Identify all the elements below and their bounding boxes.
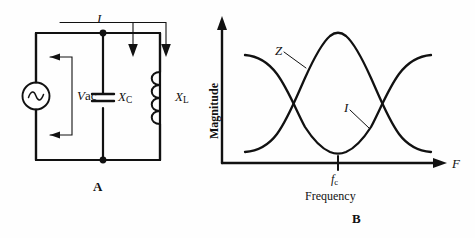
capacitor-label: XC <box>118 90 132 106</box>
inductor-label-sub: L <box>183 95 189 105</box>
x-axis-symbol: F <box>452 157 460 170</box>
voltage-arrowhead-lower <box>50 131 60 138</box>
current-label-I: I <box>97 12 101 25</box>
curve-z-label: Z <box>275 44 282 57</box>
inductor-label: XL <box>175 90 189 106</box>
inductor-coil-icon <box>152 72 160 124</box>
capacitor-label-sub: C <box>126 95 132 105</box>
node-dot-bottom <box>100 157 107 164</box>
curve-i-label: I <box>344 101 348 114</box>
x-axis-label: Frequency <box>305 190 356 202</box>
source-voltage-label-v: V <box>77 88 85 103</box>
capacitor-label-x: X <box>118 89 126 104</box>
voltage-bracket <box>50 57 72 135</box>
leader-line-i <box>350 110 369 128</box>
resonance-frequency-tick-label: fc <box>331 173 338 187</box>
source-voltage-label: Vac <box>77 89 97 102</box>
panel-b-letter: B <box>352 212 361 225</box>
figure-canvas <box>0 0 475 238</box>
node-dot-top <box>100 30 107 37</box>
curve-z <box>245 33 431 152</box>
y-axis-label: Magnitude <box>208 83 220 139</box>
current-arrowhead-inductor <box>161 44 171 57</box>
resonance-tick-sub: c <box>334 177 338 187</box>
panel-a-letter: A <box>93 180 102 193</box>
leader-line-z <box>284 52 306 68</box>
source-voltage-label-sub: ac <box>85 88 97 103</box>
voltage-arrowhead-upper <box>50 53 60 60</box>
graph-panel-b <box>217 16 447 170</box>
x-axis-arrowhead <box>433 158 447 168</box>
inductor-label-x: X <box>175 89 183 104</box>
current-arrowhead-capacitor <box>128 44 138 57</box>
y-axis-arrowhead <box>217 16 227 30</box>
figure-root: I Vac XC XL A Magnitude Z I fc Frequency… <box>0 0 475 238</box>
